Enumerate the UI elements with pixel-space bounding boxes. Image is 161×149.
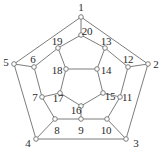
graph-node-7[interactable] bbox=[40, 95, 45, 100]
graph-node-label-5: 5 bbox=[3, 57, 8, 68]
graph-node-label-8: 8 bbox=[54, 125, 59, 136]
graph-node-label-14: 14 bbox=[101, 65, 112, 76]
graph-node-8[interactable] bbox=[53, 117, 58, 122]
graph-node-9[interactable] bbox=[79, 117, 84, 122]
graph-node-label-7: 7 bbox=[32, 92, 37, 103]
graph-edge-4-8 bbox=[38, 121, 53, 137]
graph-node-2[interactable] bbox=[146, 62, 151, 67]
graph-node-5[interactable] bbox=[12, 62, 17, 67]
graph-edge-10-11 bbox=[108, 99, 118, 117]
graph-node-label-3: 3 bbox=[133, 138, 138, 149]
graph-node-label-13: 13 bbox=[101, 36, 112, 47]
graph-node-label-2: 2 bbox=[153, 59, 158, 70]
graph-node-label-19: 19 bbox=[52, 36, 63, 47]
graph-edge-19-20 bbox=[60, 36, 78, 46]
graph-node-12[interactable] bbox=[126, 65, 131, 70]
graph-node-label-20: 20 bbox=[82, 26, 93, 37]
graph-edge-2-12 bbox=[131, 64, 146, 66]
graph-node-label-1: 1 bbox=[78, 2, 83, 13]
graph-node-label-18: 18 bbox=[52, 65, 63, 76]
graph-node-label-9: 9 bbox=[78, 125, 83, 136]
graph-node-label-12: 12 bbox=[123, 54, 134, 65]
graph-node-label-11: 11 bbox=[122, 92, 132, 103]
graph-node-label-16: 16 bbox=[71, 105, 82, 116]
dodecahedron-graph-figure: 1234567891011121314151617181920 bbox=[0, 0, 161, 149]
graph-node-18[interactable] bbox=[64, 67, 69, 72]
graph-node-label-4: 4 bbox=[25, 138, 30, 149]
graph-node-6[interactable] bbox=[32, 65, 37, 70]
graph-node-label-15: 15 bbox=[105, 91, 116, 102]
graph-edge-5-6 bbox=[17, 64, 32, 66]
graph-node-3[interactable] bbox=[124, 137, 129, 142]
graph-node-1[interactable] bbox=[79, 15, 84, 20]
graph-node-label-6: 6 bbox=[30, 54, 35, 65]
graph-node-4[interactable] bbox=[34, 137, 39, 142]
graph-node-label-17: 17 bbox=[53, 93, 64, 104]
graph-edge-15-16 bbox=[83, 94, 101, 104]
graph-node-10[interactable] bbox=[105, 117, 110, 122]
graph-node-14[interactable] bbox=[95, 67, 100, 72]
graph-node-label-10: 10 bbox=[101, 125, 112, 136]
